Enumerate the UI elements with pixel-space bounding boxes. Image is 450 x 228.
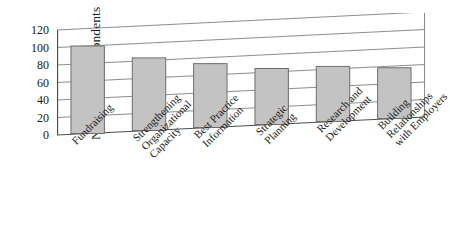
y-tick-label-100: 100 bbox=[21, 42, 49, 54]
y-tick-label-60: 60 bbox=[21, 77, 49, 89]
gridline-60 bbox=[57, 65, 425, 83]
y-tick-label-0: 0 bbox=[21, 129, 49, 141]
y-tick-label-40: 40 bbox=[21, 94, 49, 106]
axis-baseline bbox=[57, 117, 425, 135]
plot-area bbox=[57, 13, 425, 143]
y-tick-label-20: 20 bbox=[21, 112, 49, 124]
gridline-80 bbox=[57, 47, 425, 65]
y-tick-label-120: 120 bbox=[21, 24, 49, 36]
gridline-120 bbox=[57, 13, 425, 30]
plot-svg bbox=[57, 13, 425, 143]
gridline-100 bbox=[57, 30, 425, 48]
y-tick-label-80: 80 bbox=[21, 59, 49, 71]
